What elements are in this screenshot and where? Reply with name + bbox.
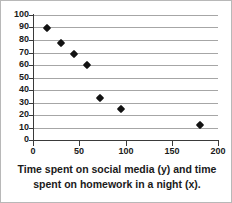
y-tick-label: 70 [5,48,29,57]
y-tick-label: 50 [5,73,29,82]
y-tick-label: 0 [5,135,29,144]
y-tick [29,65,34,66]
figure-caption: Time spent on social media (y) and time … [11,162,223,192]
y-tick [29,103,34,104]
x-tick-label: 0 [20,147,46,156]
y-tick [29,78,34,79]
y-tick [29,128,34,129]
gridline [33,27,218,28]
y-tick-label: 90 [5,22,29,31]
x-tick-label: 200 [205,147,231,156]
y-tick-label: 100 [5,10,29,19]
y-tick [29,115,34,116]
gridline [33,103,218,104]
y-tick-label: 10 [5,123,29,132]
gridline [33,128,218,129]
x-tick-label: 150 [159,147,185,156]
y-tick [29,40,34,41]
scatter-plot-figure: 0102030405060708090100 050100150200 Time… [0,0,232,203]
y-tick-label: 40 [5,85,29,94]
y-tick [29,27,34,28]
gridline [33,115,218,116]
caption-line-1: Time spent on social media (y) and time [11,162,223,177]
y-tick-label: 30 [5,98,29,107]
gridline [33,90,218,91]
y-tick [29,53,34,54]
gridline [33,78,218,79]
x-tick-label: 50 [66,147,92,156]
y-tick-label: 80 [5,35,29,44]
gridline [33,15,218,16]
y-tick-label: 20 [5,110,29,119]
caption-line-2: spent on homework in a night (x). [11,177,223,192]
y-tick [29,15,34,16]
gridline [33,65,218,66]
gridline [33,53,218,54]
y-tick-label: 60 [5,60,29,69]
x-tick-label: 100 [113,147,139,156]
y-tick [29,90,34,91]
